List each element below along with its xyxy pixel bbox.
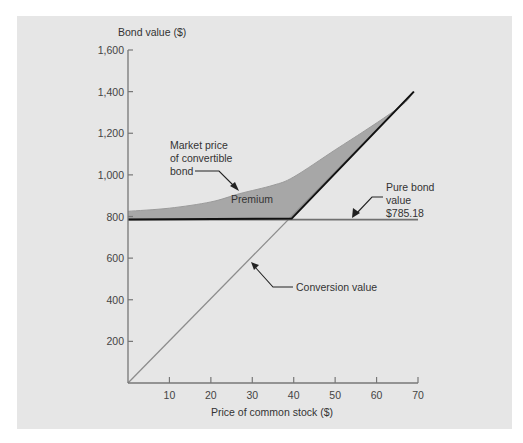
arrowhead-icon bbox=[352, 208, 360, 218]
market-price-label-line2: of convertible bbox=[170, 152, 233, 164]
y-tick-label: 200 bbox=[106, 335, 124, 347]
premium-label: Premium bbox=[231, 193, 273, 205]
market-price-leader-line bbox=[195, 171, 235, 187]
pure-bond-annotation: Pure bond value $785.18 bbox=[352, 181, 435, 219]
x-axis-label: Price of common stock ($) bbox=[211, 406, 333, 418]
arrowhead-icon bbox=[251, 262, 259, 270]
convertible-bond-chart: 2004006008001,0001,2001,4001,60010203040… bbox=[0, 0, 523, 443]
x-tick-label: 70 bbox=[412, 389, 424, 401]
pure-bond-leader-line bbox=[356, 197, 383, 214]
pure-bond-label-line3: $785.18 bbox=[386, 207, 424, 219]
y-tick-label: 800 bbox=[106, 211, 124, 223]
market-price-label-line3: bond bbox=[170, 165, 194, 177]
y-tick-label: 1,200 bbox=[98, 127, 124, 139]
x-tick-label: 50 bbox=[329, 389, 341, 401]
x-tick-label: 10 bbox=[164, 389, 176, 401]
conversion-value-annotation: Conversion value bbox=[251, 262, 377, 293]
pure-bond-label-line2: value bbox=[386, 194, 411, 206]
market-price-annotation: Market price of convertible bond bbox=[170, 139, 239, 191]
conversion-value-label: Conversion value bbox=[296, 281, 377, 293]
x-tick-label: 30 bbox=[246, 389, 258, 401]
x-tick-label: 60 bbox=[371, 389, 383, 401]
y-tick-label: 1,600 bbox=[98, 44, 124, 56]
market-price-label-line1: Market price bbox=[170, 139, 228, 151]
conversion-leader-line bbox=[255, 267, 293, 287]
x-tick-label: 20 bbox=[205, 389, 217, 401]
y-tick-label: 1,000 bbox=[98, 169, 124, 181]
axes: 2004006008001,0001,2001,4001,60010203040… bbox=[98, 44, 424, 401]
y-tick-label: 1,400 bbox=[98, 86, 124, 98]
y-axis-label: Bond value ($) bbox=[118, 26, 186, 38]
y-tick-label: 600 bbox=[106, 252, 124, 264]
pure-bond-label-line1: Pure bond bbox=[386, 181, 435, 193]
y-tick-label: 400 bbox=[106, 294, 124, 306]
x-tick-label: 40 bbox=[288, 389, 300, 401]
